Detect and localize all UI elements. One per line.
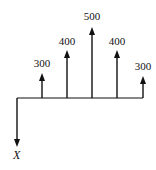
outflow-label: X (12, 148, 21, 162)
inflow-label-5: 300 (135, 60, 152, 72)
inflow-label-4: 400 (109, 35, 126, 47)
inflow-arrow-3 (89, 27, 95, 98)
outflow-arrow-x (14, 98, 20, 147)
inflow-label-1: 300 (34, 57, 51, 69)
cash-flow-diagram: X 300 400 500 400 300 (0, 0, 156, 170)
inflow-label-2: 400 (59, 35, 76, 47)
inflow-arrow-1 (39, 73, 45, 98)
inflow-label-3: 500 (84, 10, 101, 22)
inflow-arrow-2 (64, 50, 70, 98)
inflow-arrow-5 (140, 76, 146, 98)
inflow-arrow-4 (114, 50, 120, 98)
